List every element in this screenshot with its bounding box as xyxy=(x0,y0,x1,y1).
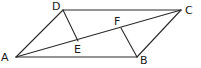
segment-bc xyxy=(137,10,181,57)
label-c: C xyxy=(185,4,193,17)
geometry-diagram: A B C D E F xyxy=(0,0,201,68)
label-e: E xyxy=(74,43,81,56)
label-d: D xyxy=(52,0,60,13)
parallelogram-figure: A B C D E F xyxy=(0,0,201,68)
segment-de xyxy=(63,10,78,41)
label-a: A xyxy=(1,51,9,64)
segment-bf xyxy=(121,28,137,57)
diagonal-ac xyxy=(16,10,181,57)
label-f: F xyxy=(114,15,120,28)
label-b: B xyxy=(140,54,148,67)
